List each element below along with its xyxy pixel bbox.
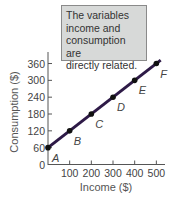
y-tick-label: 0 <box>39 159 45 171</box>
callout-line: directly related. <box>66 59 142 72</box>
callout-line: income and <box>66 22 142 35</box>
point-label: D <box>117 101 125 113</box>
data-point <box>110 94 116 100</box>
data-points: ABCDEF <box>45 61 168 164</box>
x-ticks: 100200300400500 <box>61 161 165 179</box>
y-tick-label: 300 <box>27 74 45 86</box>
data-point <box>89 111 95 117</box>
callout-line: consumption are <box>66 34 142 59</box>
y-tick-label: 60 <box>33 142 45 154</box>
y-tick-label: 360 <box>27 58 45 70</box>
annotation-callout: The variables income and consumption are… <box>61 5 147 61</box>
data-point <box>154 61 160 67</box>
point-label: C <box>95 118 103 130</box>
point-label: F <box>160 68 168 80</box>
x-tick-label: 300 <box>104 167 122 179</box>
x-tick-label: 400 <box>126 167 144 179</box>
consumption-line <box>48 60 161 148</box>
data-point <box>67 128 73 134</box>
x-tick-label: 500 <box>148 167 166 179</box>
point-label: B <box>74 135 81 147</box>
y-tick-label: 180 <box>27 108 45 120</box>
point-label: A <box>51 152 59 164</box>
callout-line: The variables <box>66 9 142 22</box>
x-axis-title: Income ($) <box>80 181 133 193</box>
y-axis-title: Consumption ($) <box>8 71 20 152</box>
data-point <box>45 145 51 151</box>
point-label: E <box>139 84 147 96</box>
data-point <box>132 78 138 84</box>
y-tick-label: 120 <box>27 125 45 137</box>
x-tick-label: 100 <box>61 167 79 179</box>
x-tick-label: 200 <box>83 167 101 179</box>
y-tick-label: 240 <box>27 91 45 103</box>
